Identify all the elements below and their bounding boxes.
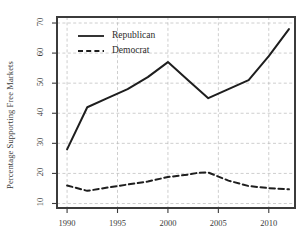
y-tick-20: 20	[35, 162, 45, 182]
plot-border	[57, 17, 295, 208]
legend-label-republican: Republican	[112, 30, 155, 40]
y-tick-60: 60	[35, 42, 45, 62]
chart-figure: Percentage Supporting Free Markets 10203…	[0, 0, 304, 250]
legend-keys	[78, 36, 104, 51]
x-tick-1990: 1990	[47, 218, 87, 228]
x-tick-2000: 2000	[148, 218, 188, 228]
axis-ticks	[52, 23, 269, 213]
gridlines	[57, 17, 295, 208]
y-tick-50: 50	[35, 72, 45, 92]
y-tick-70: 70	[35, 12, 45, 32]
y-tick-10: 10	[35, 192, 45, 212]
y-tick-40: 40	[35, 102, 45, 122]
y-tick-30: 30	[35, 132, 45, 152]
x-tick-2010: 2010	[249, 218, 289, 228]
x-tick-2005: 2005	[198, 218, 238, 228]
x-tick-1995: 1995	[98, 218, 138, 228]
legend-label-democrat: Democrat	[112, 45, 149, 55]
